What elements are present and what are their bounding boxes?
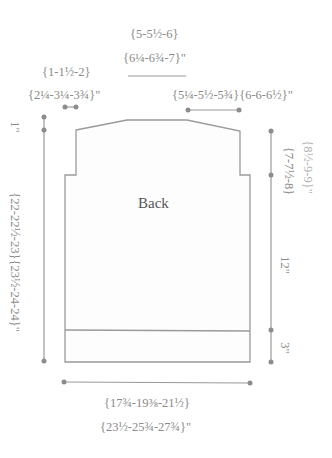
piece-title: Back bbox=[138, 195, 169, 212]
back-piece-outline bbox=[65, 120, 250, 362]
right-shoulder-label: {5¼-5½-5¾}{6-6-6½}" bbox=[172, 88, 293, 102]
right-shoulder-dimension bbox=[186, 108, 242, 113]
left-length-dimension bbox=[42, 115, 47, 364]
armhole-depth-label-2: {8½-9-9}" bbox=[301, 127, 315, 207]
total-length-label: {22-22½-23}{23½-24-24}" bbox=[8, 187, 22, 337]
bottom-width-dimension bbox=[62, 380, 253, 386]
left-shoulder-label-bottom: {2¼-3¼-3¾}" bbox=[28, 88, 100, 102]
ribbing-length-label: 3" bbox=[278, 333, 292, 363]
neck-width-label-top: {5-5½-6} bbox=[130, 27, 178, 41]
side-length-label: 12" bbox=[278, 250, 292, 280]
width-label-bottom: {23½-25¾-27¾}" bbox=[100, 420, 191, 434]
left-shoulder-dimension bbox=[63, 105, 79, 110]
left-shoulder-label-top: {1-1½-2} bbox=[42, 65, 90, 79]
neck-width-label-bottom: {6¼-6¾-7}" bbox=[123, 51, 186, 65]
neck-depth-label: 1" bbox=[8, 117, 22, 137]
armhole-depth-label: {7-7½-8} bbox=[282, 131, 296, 211]
schematic-diagram: {5-5½-6} {6¼-6¾-7}" {1-1½-2} {2¼-3¼-3¾}"… bbox=[0, 0, 332, 458]
width-label-top: {17¾-19⅜-21½} bbox=[104, 396, 190, 410]
right-length-dimension bbox=[269, 129, 274, 365]
